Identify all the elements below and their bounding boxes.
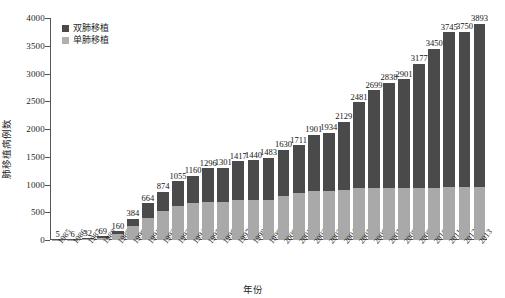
bar-segment-double-lung <box>353 102 365 188</box>
bar-segment-double-lung <box>202 168 214 202</box>
bar-segment-double-lung <box>398 79 410 188</box>
bar-total-label: 1711 <box>290 136 307 145</box>
bar-column: 1483 <box>263 158 275 240</box>
bar-column: 2838 <box>383 83 395 241</box>
bar-total-label: 2901 <box>396 70 413 79</box>
bar-series-container: 5198561986321987691988160198938419906641… <box>50 18 487 240</box>
bar-segment-double-lung <box>323 133 335 191</box>
bar-segment-double-lung <box>308 135 320 192</box>
bar-segment-double-lung <box>413 64 425 188</box>
bar-column: 1901 <box>308 135 320 241</box>
legend-label-double: 双肺移植 <box>73 22 109 34</box>
bar-column: 2901 <box>398 79 410 240</box>
bar-total-label: 1934 <box>320 123 337 132</box>
bar-segment-double-lung <box>248 160 260 200</box>
bar-segment-double-lung <box>187 176 199 203</box>
bar-column: 3745 <box>443 32 455 240</box>
bar-segment-double-lung <box>459 32 471 187</box>
bar-column: 3177 <box>413 64 425 240</box>
bar-total-label: 3893 <box>471 14 488 23</box>
bar-total-label: 384 <box>127 209 140 218</box>
legend-item-single: 单肺移植 <box>62 34 109 46</box>
bar-total-label: 3450 <box>426 39 443 48</box>
bar-segment-double-lung <box>142 203 154 217</box>
bar-segment-double-lung <box>157 192 169 212</box>
bar-segment-double-lung <box>217 168 229 202</box>
bar-column: 1440 <box>248 160 260 240</box>
lung-transplant-stacked-bar-chart: 肺移植病例数 05001000150020002500300035004000 … <box>0 0 505 298</box>
y-tick-label: 4000 <box>26 13 50 23</box>
bar-segment-double-lung <box>474 24 486 187</box>
bar-segment-double-lung <box>232 161 244 199</box>
y-tick-label: 1500 <box>26 152 50 162</box>
bar-segment-double-lung <box>428 49 440 188</box>
plot-area: 05001000150020002500300035004000 5198561… <box>50 18 487 240</box>
bar-segment-double-lung <box>278 150 290 197</box>
bar-column: 1417 <box>232 161 244 240</box>
bar-total-label: 2481 <box>350 93 367 102</box>
x-axis-title: 年份 <box>0 282 505 296</box>
bar-total-label: 160 <box>111 222 124 231</box>
bar-segment-double-lung <box>263 158 275 200</box>
bar-total-label: 874 <box>157 182 170 191</box>
bar-column: 2129 <box>338 122 350 240</box>
bar-segment-double-lung <box>172 181 184 205</box>
bar-segment-double-lung <box>368 90 380 188</box>
bar-segment-double-lung <box>127 219 139 226</box>
bar-segment-double-lung <box>443 32 455 187</box>
bar-segment-double-lung <box>338 122 350 190</box>
y-tick-label: 2000 <box>26 124 50 134</box>
y-tick-label: 1000 <box>26 180 50 190</box>
y-tick-label: 0 <box>40 235 50 245</box>
bar-column: 1630 <box>278 150 290 240</box>
bar-column: 2699 <box>368 90 380 240</box>
bar-column: 1711 <box>293 145 305 240</box>
legend-label-single: 单肺移植 <box>73 34 109 46</box>
bar-column: 3450 <box>428 49 440 240</box>
bar-total-label: 1483 <box>260 148 277 157</box>
legend-swatch-double-icon <box>62 25 69 32</box>
chart-legend: 双肺移植 单肺移植 <box>62 22 109 46</box>
bar-column: 1296 <box>202 168 214 240</box>
y-tick-label: 3000 <box>26 69 50 79</box>
bar-total-label: 664 <box>142 194 155 203</box>
y-tick-label: 500 <box>31 207 50 217</box>
y-tick-label: 3500 <box>26 41 50 51</box>
y-tick-label: 2500 <box>26 96 50 106</box>
bar-total-label: 3177 <box>411 54 428 63</box>
bar-total-label: 2129 <box>335 112 352 121</box>
bar-total-label: 3750 <box>456 22 473 31</box>
bar-segment-double-lung <box>293 145 305 193</box>
bar-column: 3750 <box>459 32 471 240</box>
bar-column: 2481 <box>353 102 365 240</box>
bar-column: 1301 <box>217 168 229 240</box>
legend-item-double: 双肺移植 <box>62 22 109 34</box>
legend-swatch-single-icon <box>62 37 69 44</box>
bar-segment-double-lung <box>383 83 395 188</box>
y-axis-title: 肺移植病例数 <box>0 119 13 179</box>
bar-column: 3893 <box>474 24 486 240</box>
bar-column: 1934 <box>323 133 335 240</box>
